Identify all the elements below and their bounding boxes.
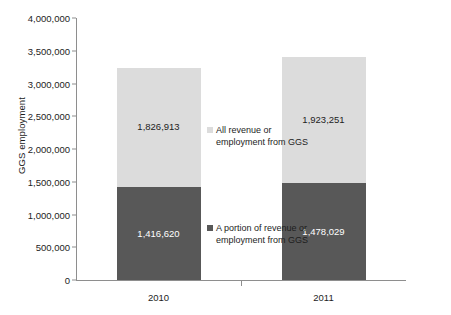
x-axis-category-label: 2011	[313, 292, 333, 303]
bar-segment-value-label: 1,416,620	[117, 228, 201, 239]
legend-swatch-dark-icon	[207, 225, 213, 231]
y-axis-tick-label: 2,500,000	[28, 111, 76, 122]
y-axis-tick-mark	[72, 214, 76, 215]
y-axis-tick-mark	[72, 83, 76, 84]
y-axis-tick-label: 4,000,000	[28, 13, 76, 24]
y-axis-tick-mark	[72, 181, 76, 182]
stacked-bar-chart: GGS employment 0500,0001,000,0001,500,00…	[0, 0, 451, 315]
y-axis-tick-label: 1,500,000	[28, 176, 76, 187]
y-axis-line	[76, 18, 77, 280]
y-axis-tick-mark	[72, 50, 76, 51]
bar-2011: 1,478,0291,923,251	[282, 57, 366, 280]
x-axis-separator-tick	[241, 280, 242, 286]
y-axis-tick-label: 500,000	[36, 242, 76, 253]
y-axis-tick-mark	[72, 247, 76, 248]
x-axis-category-label: 2010	[148, 292, 169, 303]
legend-swatch-light-icon	[207, 127, 213, 133]
y-axis-tick-label: 1,000,000	[28, 209, 76, 220]
y-axis-tick-label: 2,000,000	[28, 144, 76, 155]
y-axis-tick-mark	[72, 280, 76, 281]
legend-label-portion-revenue-line1: A portion of revenue or	[216, 223, 307, 233]
y-axis-title: GGS employment	[16, 66, 27, 206]
bar-segment: 1,923,251	[282, 57, 366, 183]
y-axis-tick-label: 3,000,000	[28, 78, 76, 89]
bar-segment: 1,826,913	[117, 68, 201, 188]
legend-label-all-revenue-line1: All revenue or	[216, 125, 272, 135]
y-axis-tick-mark	[72, 149, 76, 150]
bar-segment-value-label: 1,923,251	[282, 114, 366, 125]
legend-entry-all-revenue: All revenue or employment from GGS	[207, 125, 308, 148]
y-axis-tick-mark	[72, 116, 76, 117]
y-axis-tick-label: 3,500,000	[28, 45, 76, 56]
legend-label-all-revenue-line2: employment from GGS	[207, 137, 308, 149]
bar-segment: 1,416,620	[117, 187, 201, 280]
legend-entry-portion-revenue: A portion of revenue or employment from …	[207, 223, 308, 246]
legend-label-portion-revenue-line2: employment from GGS	[207, 235, 308, 247]
bar-2010: 1,416,6201,826,913	[117, 68, 201, 280]
y-axis-tick-mark	[72, 18, 76, 19]
bar-segment-value-label: 1,826,913	[117, 121, 201, 132]
chart-title-remnant	[0, 0, 451, 7]
